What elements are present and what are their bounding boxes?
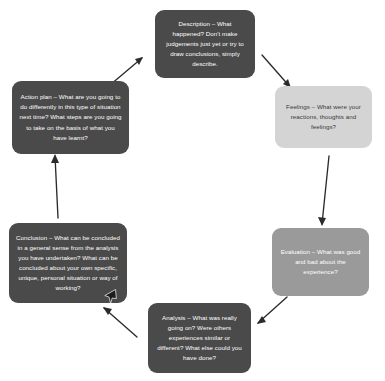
arrowhead-conclusion-to-actionplan xyxy=(51,154,59,163)
node-analysis-text: Analysis – What was really going on? Wer… xyxy=(155,313,244,363)
node-description-text: Description – What happened? Don't make … xyxy=(162,19,248,69)
arrow-evaluation-to-analysis xyxy=(258,297,287,323)
arrow-description-to-feelings xyxy=(262,55,291,88)
arrowhead-evaluation-to-analysis xyxy=(257,316,266,324)
arrowhead-feelings-to-evaluation xyxy=(318,217,326,226)
mouse-pointer-icon xyxy=(104,289,117,306)
node-action-plan-text: Action plan – What are you going to do d… xyxy=(19,92,122,142)
arrowhead-analysis-to-conclusion xyxy=(103,307,112,315)
diagram-canvas: Description – What happened? Don't make … xyxy=(0,0,385,381)
node-conclusion-text: Conclusion – What can be concluded in a … xyxy=(16,233,120,293)
node-analysis: Analysis – What was really going on? Wer… xyxy=(148,303,251,373)
node-feelings: Feelings – What were your reactions, tho… xyxy=(275,86,372,148)
arrow-feelings-to-evaluation xyxy=(322,156,329,224)
node-feelings-text: Feelings – What were your reactions, tho… xyxy=(282,102,365,132)
arrowhead-actionplan-to-description xyxy=(135,57,143,65)
node-evaluation: Evaluation – What was good and bad about… xyxy=(272,228,369,296)
node-description: Description – What happened? Don't make … xyxy=(155,10,255,78)
node-evaluation-text: Evaluation – What was good and bad about… xyxy=(279,247,362,277)
arrow-conclusion-to-actionplan xyxy=(55,156,58,218)
node-action-plan: Action plan – What are you going to do d… xyxy=(12,81,129,154)
arrow-analysis-to-conclusion xyxy=(104,308,137,337)
